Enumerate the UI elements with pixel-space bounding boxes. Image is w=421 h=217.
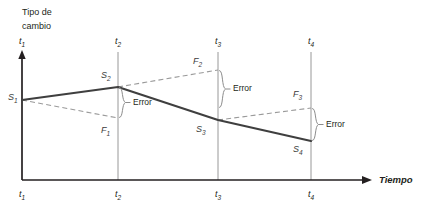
x-tick-t3: t3 [215,190,221,201]
x-tick-t4: t4 [308,190,314,201]
y-axis-title-line1: Tipo de [22,8,52,17]
top-tick-t4: t4 [308,37,314,48]
error-brace-t4 [313,109,319,141]
x-axis-arrow [362,176,372,184]
point-label-s3: S3 [196,125,206,136]
point-label-s1: S1 [8,93,18,104]
y-axis-title-line2: cambio [22,22,51,31]
x-tick-t2: t2 [115,190,121,201]
point-label-s4: S4 [293,145,303,156]
x-tick-t1: t1 [19,190,25,201]
x-axis-title: Tiempo [379,175,413,185]
forward-segment-s3-f3 [218,108,311,120]
top-tick-t2: t2 [115,37,121,48]
top-tick-t3: t3 [215,37,221,48]
error-brace-t2 [120,88,126,118]
point-label-s2: S2 [101,71,111,82]
point-label-f2: F2 [193,57,202,68]
chart-canvas [0,0,421,217]
y-axis-arrow [18,50,25,59]
forward-segment-s1-f1 [22,100,118,118]
error-label-t4: Error [326,120,345,129]
exchange-rate-forecast-chart: Tipo de cambio t1 t2 t3 t4 t1 t2 t3 t4 T… [0,0,421,217]
top-tick-t1: t1 [19,37,25,48]
error-brace-t3 [220,71,226,108]
error-label-t3: Error [233,84,252,93]
error-label-t2: Error [133,98,152,107]
point-label-f1: F1 [101,126,110,137]
forward-segment-s2-f2 [118,70,218,87]
point-label-f3: F3 [293,90,302,101]
